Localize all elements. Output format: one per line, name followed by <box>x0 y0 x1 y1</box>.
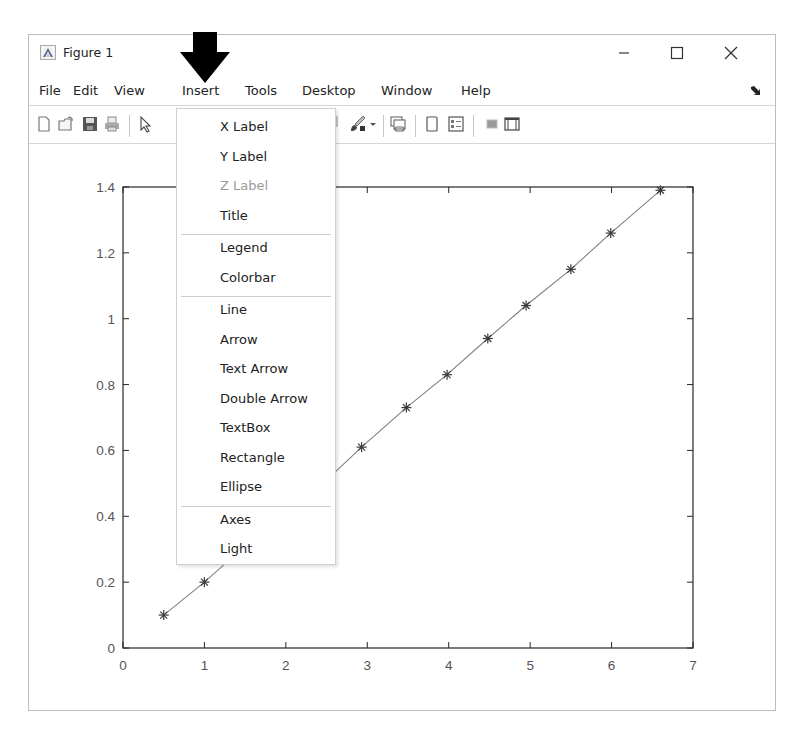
maximize-button[interactable] <box>657 39 697 67</box>
menu-item-label: Arrow <box>220 332 258 347</box>
menu-file[interactable]: File <box>39 83 61 98</box>
menu-item-label: Y Label <box>220 149 267 164</box>
save-icon[interactable] <box>81 115 99 133</box>
figure-window: Figure 1 File Edit View Insert Tools Des… <box>28 34 776 711</box>
menu-item-line[interactable]: Line <box>177 297 335 323</box>
x-tick-label: 1 <box>201 658 209 673</box>
menu-item-z-label: Z Label <box>177 173 335 199</box>
x-tick-label: 0 <box>119 658 127 673</box>
maximize-icon <box>670 46 684 60</box>
x-tick-label: 5 <box>526 658 534 673</box>
menu-item-arrow[interactable]: Arrow <box>177 327 335 353</box>
menu-item-label: Line <box>220 302 247 317</box>
data-point-marker <box>401 403 411 413</box>
matlab-figure-icon <box>40 45 56 60</box>
minimize-button[interactable] <box>604 39 644 67</box>
y-tick-label: 0.4 <box>96 509 115 524</box>
menu-item-label: TextBox <box>220 420 270 435</box>
menu-item-label: Light <box>220 541 252 556</box>
toolbar-separator <box>383 115 384 137</box>
show-plot-tools-icon[interactable] <box>447 115 465 133</box>
menu-item-label: Z Label <box>220 178 268 193</box>
colorbar-icon[interactable] <box>483 115 501 133</box>
data-point-marker <box>357 442 367 452</box>
close-button[interactable] <box>711 39 751 67</box>
insert-menu-dropdown: X LabelY LabelZ LabelTitleLegendColorbar… <box>176 108 336 565</box>
y-tick-label: 0.2 <box>96 575 115 590</box>
menu-desktop[interactable]: Desktop <box>302 83 356 98</box>
toolbar-separator <box>415 115 416 137</box>
menu-window[interactable]: Window <box>381 83 432 98</box>
y-tick-label: 0.8 <box>96 378 115 393</box>
menu-item-rectangle[interactable]: Rectangle <box>177 445 335 471</box>
menu-item-label: Legend <box>220 240 268 255</box>
menu-item-label: Ellipse <box>220 479 262 494</box>
hide-plot-tools-icon[interactable] <box>423 115 441 133</box>
menu-item-axes[interactable]: Axes <box>177 507 335 533</box>
down-arrow-annotation-icon <box>180 32 232 84</box>
legend-box-icon[interactable] <box>503 115 521 133</box>
pointer-icon[interactable] <box>137 115 155 133</box>
x-tick-label: 2 <box>282 658 290 673</box>
y-tick-label: 0 <box>107 641 115 656</box>
menu-item-colorbar[interactable]: Colorbar <box>177 265 335 291</box>
data-point-marker <box>483 333 493 343</box>
window-title: Figure 1 <box>63 45 113 60</box>
figure-toolbar <box>29 107 775 144</box>
menu-item-double-arrow[interactable]: Double Arrow <box>177 386 335 412</box>
menu-item-label: Axes <box>220 512 251 527</box>
close-icon <box>724 46 738 60</box>
x-tick-label: 6 <box>608 658 616 673</box>
dock-arrow-icon[interactable] <box>751 86 761 95</box>
menu-item-text-arrow[interactable]: Text Arrow <box>177 356 335 382</box>
menu-item-label: Double Arrow <box>220 391 308 406</box>
plot-area: 0123456700.20.40.60.811.21.4 <box>29 144 775 710</box>
menu-item-label: Text Arrow <box>220 361 288 376</box>
toolbar-separator <box>129 115 130 137</box>
menu-item-ellipse[interactable]: Ellipse <box>177 474 335 500</box>
minimize-icon <box>618 47 630 59</box>
menu-item-y-label[interactable]: Y Label <box>177 144 335 170</box>
menu-item-label: X Label <box>220 119 268 134</box>
y-tick-label: 1.4 <box>96 180 115 195</box>
link-plot-icon[interactable] <box>389 115 407 133</box>
title-bar[interactable]: Figure 1 <box>29 35 775 73</box>
menu-item-title[interactable]: Title <box>177 203 335 229</box>
menu-insert[interactable]: Insert <box>182 83 219 98</box>
x-tick-label: 7 <box>689 658 697 673</box>
open-file-icon[interactable] <box>57 115 75 133</box>
menu-item-label: Rectangle <box>220 450 285 465</box>
menu-item-light[interactable]: Light <box>177 536 335 562</box>
print-icon[interactable] <box>103 115 121 133</box>
menu-view[interactable]: View <box>114 83 145 98</box>
menu-item-label: Title <box>220 208 248 223</box>
menu-item-x-label[interactable]: X Label <box>177 114 335 140</box>
menu-item-legend[interactable]: Legend <box>177 235 335 261</box>
menu-tools[interactable]: Tools <box>245 83 277 98</box>
y-tick-label: 1 <box>107 312 115 327</box>
y-tick-label: 0.6 <box>96 443 115 458</box>
menu-help[interactable]: Help <box>461 83 491 98</box>
brush-dropdown-icon[interactable] <box>369 115 377 133</box>
brush-icon[interactable] <box>349 115 367 133</box>
menu-edit[interactable]: Edit <box>73 83 98 98</box>
menu-item-textbox[interactable]: TextBox <box>177 415 335 441</box>
y-tick-label: 1.2 <box>96 246 115 261</box>
x-tick-label: 4 <box>445 658 453 673</box>
toolbar-separator <box>473 115 474 137</box>
new-figure-icon[interactable] <box>35 115 53 133</box>
menu-item-label: Colorbar <box>220 270 276 285</box>
line-chart[interactable]: 0123456700.20.40.60.811.21.4 <box>29 144 775 710</box>
x-tick-label: 3 <box>364 658 372 673</box>
menu-bar: File Edit View Insert Tools Desktop Wind… <box>29 79 775 106</box>
